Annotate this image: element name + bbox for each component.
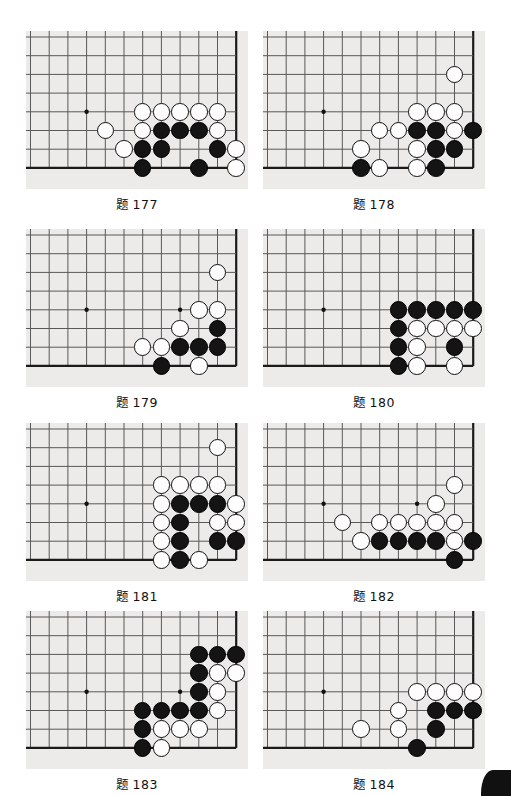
black-stone: [408, 301, 426, 319]
go-board-181: [26, 423, 248, 581]
black-stone: [427, 532, 445, 550]
white-stone: [153, 551, 171, 569]
white-stone: [153, 495, 171, 513]
go-board-184: [263, 611, 485, 769]
problem-181: 题181: [26, 423, 248, 605]
black-stone: [446, 338, 464, 356]
white-stone: [408, 140, 426, 158]
caption-number: 178: [370, 197, 395, 212]
black-stone: [190, 122, 208, 140]
white-stone: [227, 664, 245, 682]
black-stone: [190, 495, 208, 513]
go-board-178: [263, 31, 485, 189]
caption-label: 题: [353, 197, 367, 212]
black-stone: [352, 159, 370, 177]
white-stone: [352, 532, 370, 550]
star-point: [415, 502, 419, 506]
black-stone: [390, 301, 408, 319]
white-stone: [190, 720, 208, 738]
black-stone: [464, 702, 482, 720]
black-stone: [446, 140, 464, 158]
black-stone: [171, 551, 189, 569]
white-stone: [115, 140, 133, 158]
white-stone: [153, 338, 171, 356]
black-stone: [190, 702, 208, 720]
black-stone: [171, 532, 189, 550]
caption-number: 183: [133, 777, 158, 792]
star-point: [321, 690, 325, 694]
caption-number: 177: [133, 197, 158, 212]
white-stone: [227, 140, 245, 158]
white-stone: [153, 103, 171, 121]
star-point: [84, 308, 88, 312]
white-stone: [171, 476, 189, 494]
problem-caption-182: 题182: [263, 586, 485, 605]
black-stone: [190, 683, 208, 701]
black-stone: [209, 532, 227, 550]
white-stone: [427, 683, 445, 701]
caption-label: 题: [116, 589, 130, 604]
caption-label: 题: [353, 395, 367, 410]
white-stone: [446, 476, 464, 494]
star-point: [321, 110, 325, 114]
black-stone: [153, 357, 171, 375]
page-corner-mark: [481, 770, 511, 796]
white-stone: [408, 338, 426, 356]
star-point: [84, 110, 88, 114]
white-stone: [427, 495, 445, 513]
white-stone: [408, 683, 426, 701]
white-stone: [427, 103, 445, 121]
star-point: [84, 690, 88, 694]
star-point: [321, 308, 325, 312]
white-stone: [209, 664, 227, 682]
problem-183: 题183: [26, 611, 248, 793]
white-stone: [190, 551, 208, 569]
problem-caption-179: 题179: [26, 392, 248, 411]
caption-number: 182: [370, 589, 395, 604]
black-stone: [134, 739, 152, 757]
white-stone: [190, 301, 208, 319]
caption-number: 181: [133, 589, 158, 604]
problem-180: 题180: [263, 229, 485, 411]
caption-number: 184: [370, 777, 395, 792]
white-stone: [408, 320, 426, 338]
black-stone: [427, 140, 445, 158]
white-stone: [153, 532, 171, 550]
problem-caption-180: 题180: [263, 392, 485, 411]
black-stone: [408, 532, 426, 550]
white-stone: [352, 720, 370, 738]
white-stone: [371, 159, 389, 177]
black-stone: [171, 338, 189, 356]
white-stone: [209, 476, 227, 494]
problem-179: 题179: [26, 229, 248, 411]
white-stone: [171, 103, 189, 121]
problem-182: 题182: [263, 423, 485, 605]
white-stone: [153, 739, 171, 757]
caption-number: 180: [370, 395, 395, 410]
white-stone: [209, 301, 227, 319]
white-stone: [427, 320, 445, 338]
caption-label: 题: [116, 197, 130, 212]
caption-label: 题: [353, 589, 367, 604]
page-root: 题177题178题179题180题181题182题183题184: [0, 0, 511, 796]
black-stone: [171, 122, 189, 140]
star-point: [178, 690, 182, 694]
black-stone: [171, 514, 189, 532]
white-stone: [209, 683, 227, 701]
white-stone: [464, 320, 482, 338]
problem-177: 题177: [26, 31, 248, 213]
black-stone: [390, 338, 408, 356]
problem-184: 题184: [263, 611, 485, 793]
go-board-180: [263, 229, 485, 387]
white-stone: [227, 514, 245, 532]
black-stone: [190, 338, 208, 356]
black-stone: [153, 140, 171, 158]
white-stone: [464, 683, 482, 701]
black-stone: [408, 739, 426, 757]
white-stone: [352, 140, 370, 158]
black-stone: [446, 551, 464, 569]
white-stone: [171, 720, 189, 738]
star-point: [84, 502, 88, 506]
caption-label: 题: [116, 395, 130, 410]
black-stone: [427, 122, 445, 140]
